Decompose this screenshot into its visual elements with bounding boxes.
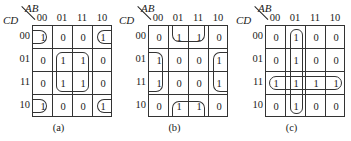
group-loop	[148, 52, 163, 92]
cell: 0	[169, 49, 189, 72]
cell: 0	[326, 26, 346, 49]
kmap-grid: 1 0 0 1 0 1 1 0 0 1 1 0 1 0 0 1	[32, 25, 112, 117]
col-header: 00	[148, 12, 168, 23]
group-loop	[97, 30, 112, 44]
group-loop	[269, 76, 342, 90]
cell: 0	[209, 26, 229, 49]
cell: 0	[306, 26, 326, 49]
row-header: 01	[12, 53, 30, 64]
row-header: 11	[12, 76, 30, 87]
cell: 0	[93, 49, 113, 72]
cell: 0	[266, 49, 286, 72]
cell: 0	[53, 26, 73, 49]
col-header: 11	[72, 12, 92, 23]
cell: 0	[326, 49, 346, 72]
group-loop	[32, 30, 47, 44]
col-header: 10	[208, 12, 228, 23]
group-loop	[213, 52, 228, 92]
row-var-label: CD	[119, 14, 134, 26]
row-header: 10	[245, 99, 263, 110]
map-caption: (a)	[0, 122, 117, 133]
row-header: 01	[128, 53, 146, 64]
cell: 0	[189, 49, 209, 72]
cell: 0	[326, 95, 346, 118]
col-header: 10	[325, 12, 345, 23]
row-header: 00	[12, 30, 30, 41]
row-var-label: CD	[3, 14, 18, 26]
cell: 0	[73, 26, 93, 49]
col-header: 11	[188, 12, 208, 23]
cell: 0	[33, 72, 53, 95]
kmap-a: AB CD 00 01 11 10 00 01 11 10 1 0 0 1 0 …	[0, 0, 117, 141]
cell: 0	[149, 95, 169, 118]
group-loop	[172, 25, 205, 42]
kmap-c: AB CD 00 01 11 10 00 01 11 10 0 1 0 0 0 …	[233, 0, 350, 141]
col-header: 01	[285, 12, 305, 23]
col-header: 01	[168, 12, 188, 23]
col-header: 10	[92, 12, 112, 23]
cell: 0	[266, 95, 286, 118]
cell: 0	[149, 26, 169, 49]
cell: 0	[93, 72, 113, 95]
cell: 0	[33, 49, 53, 72]
row-header: 11	[245, 76, 263, 87]
group-loop	[32, 99, 47, 113]
group-loop	[290, 29, 303, 114]
row-header: 10	[12, 99, 30, 110]
cell: 0	[306, 49, 326, 72]
row-header: 01	[245, 53, 263, 64]
row-header: 00	[245, 30, 263, 41]
cell: 0	[209, 95, 229, 118]
kmap-b: AB CD 00 01 11 10 00 01 11 10 0 1 1 0 1 …	[116, 0, 233, 141]
cell: 0	[266, 26, 286, 49]
row-header: 00	[128, 30, 146, 41]
cell: 0	[73, 95, 93, 118]
group-loop	[172, 101, 205, 117]
col-header: 11	[305, 12, 325, 23]
col-header: 00	[32, 12, 52, 23]
cell: 0	[53, 95, 73, 118]
cell: 0	[169, 72, 189, 95]
col-header: 01	[52, 12, 72, 23]
group-loop	[97, 99, 112, 113]
map-caption: (b)	[116, 122, 233, 133]
kmap-grid: 0 1 0 0 0 1 0 0 1 1 1 1 0 1 0 0	[265, 25, 345, 117]
row-header: 11	[128, 76, 146, 87]
row-header: 10	[128, 99, 146, 110]
cell: 0	[189, 72, 209, 95]
col-header: 00	[265, 12, 285, 23]
row-var-label: CD	[236, 14, 251, 26]
group-loop	[56, 52, 89, 92]
map-caption: (c)	[233, 122, 350, 133]
kmap-grid: 0 1 1 0 1 0 0 1 1 0 0 1 0 1 1 0	[148, 25, 228, 117]
cell: 0	[306, 95, 326, 118]
